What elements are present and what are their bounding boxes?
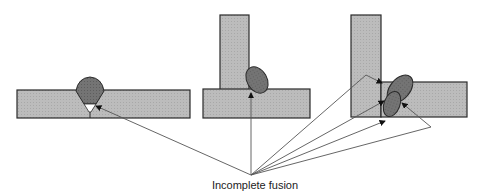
caption-label: Incomplete fusion bbox=[180, 179, 330, 191]
butt-joint bbox=[17, 77, 190, 118]
tee-vertical-plate bbox=[220, 15, 249, 90]
tee-horizontal-plate bbox=[203, 89, 310, 118]
weld-diagram bbox=[0, 0, 487, 196]
corner-joint bbox=[351, 15, 467, 119]
corner-vertical-plate bbox=[351, 15, 381, 117]
tee-joint bbox=[203, 15, 310, 118]
butt-plate bbox=[17, 90, 190, 118]
